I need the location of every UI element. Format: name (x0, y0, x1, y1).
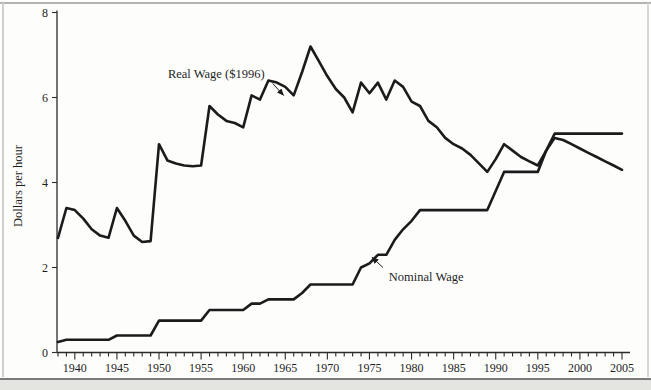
x-tick-label: 1960 (231, 361, 255, 375)
nominal-wage-pointer-arrow (372, 257, 383, 267)
x-tick-label: 1950 (147, 361, 171, 375)
x-tick-label: 1990 (484, 361, 508, 375)
page-bottom-band (0, 380, 651, 390)
x-tick-label: 1970 (315, 361, 339, 375)
y-tick-label: 0 (42, 346, 48, 360)
real-wage-line (58, 47, 622, 243)
x-tick-label: 1985 (442, 361, 466, 375)
x-tick-label: 1995 (526, 361, 550, 375)
x-tick-label: 2000 (568, 361, 592, 375)
x-tick-label: 1965 (273, 361, 297, 375)
x-tick-label: 1980 (400, 361, 424, 375)
x-tick-label: 1955 (189, 361, 213, 375)
x-tick-label: 2005 (610, 361, 634, 375)
nominal-wage-label: Nominal Wage (389, 270, 464, 284)
y-tick-label: 4 (42, 176, 48, 190)
y-axis-title: Dollars per hour (11, 144, 25, 227)
y-tick-label: 8 (42, 6, 48, 20)
x-tick-label: 1945 (105, 361, 129, 375)
minimum-wage-line-chart: 02468Dollars per hour1940194519501955196… (0, 0, 651, 390)
x-tick-label: 1975 (357, 361, 381, 375)
y-tick-label: 6 (42, 91, 48, 105)
x-tick-label: 1940 (63, 361, 87, 375)
y-tick-label: 2 (42, 261, 48, 275)
figure-page: 02468Dollars per hour1940194519501955196… (0, 0, 651, 390)
real-wage-label: Real Wage ($1996) (168, 67, 265, 81)
